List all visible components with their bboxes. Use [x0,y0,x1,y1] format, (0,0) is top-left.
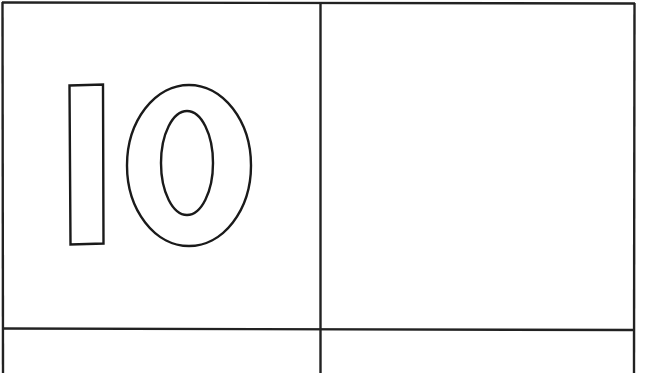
cell-number-10 [70,85,252,247]
worksheet-page: 10 [0,0,668,373]
cell-bottom-right [322,331,633,373]
digit-zero-outline [127,85,251,246]
grid-right-border [634,3,635,373]
worksheet-grid [0,0,668,373]
grid-row-divider [2,329,634,331]
cell-top-right [322,5,633,327]
grid-top-border [2,3,635,4]
digit-one-outline [70,85,104,245]
digit-zero-inner [161,111,213,215]
grid-left-border [3,2,4,373]
cell-bottom-left [4,331,319,373]
